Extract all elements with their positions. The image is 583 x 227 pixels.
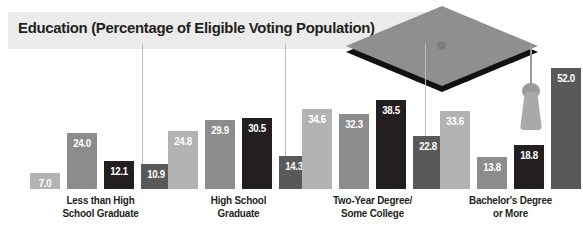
bar[interactable]: 10.9 [141, 164, 171, 189]
category-label-line-1: Bachelor's Degree [444, 194, 577, 207]
bar-group-1: 7.024.012.110.9Less than HighSchool Grad… [30, 0, 171, 189]
category-label-line-2: Graduate [172, 207, 305, 220]
education-bar-chart: Education (Percentage of Eligible Voting… [0, 0, 583, 227]
bar-value-label: 30.5 [244, 122, 270, 134]
bar-value-label: 22.8 [415, 140, 441, 152]
bar-value-label: 34.6 [304, 113, 330, 125]
bar-value-label: 24.0 [69, 137, 95, 149]
category-label-line-1: Two-Year Degree/ [306, 194, 439, 207]
bar[interactable]: 7.0 [30, 173, 60, 189]
bar[interactable]: 29.9 [205, 120, 235, 189]
bar-value-label: 33.6 [442, 115, 468, 127]
bar[interactable]: 30.5 [242, 118, 272, 189]
category-label-line-1: Less than High [34, 194, 167, 207]
bar[interactable]: 34.6 [302, 109, 332, 189]
category-label: Bachelor's Degreeor More [444, 194, 577, 219]
bar[interactable]: 18.8 [514, 145, 544, 189]
category-label-line-2: Some College [306, 207, 439, 220]
bar-value-label: 29.9 [207, 124, 233, 136]
bar-value-label: 18.8 [516, 149, 542, 161]
bar-group-2: 24.829.930.514.3High SchoolGraduate [168, 0, 309, 189]
bar-value-label: 52.0 [553, 72, 579, 84]
bar-group-bars: 33.613.818.852.0 [440, 0, 581, 189]
bar[interactable]: 52.0 [551, 68, 581, 189]
bar[interactable]: 24.8 [168, 131, 198, 189]
bar-group-3: 34.632.338.522.8Two-Year Degree/Some Col… [302, 0, 443, 189]
bar-group-bars: 7.024.012.110.9 [30, 0, 171, 189]
bar-value-label: 32.3 [341, 118, 367, 130]
category-label-line-2: School Graduate [34, 207, 167, 220]
category-label: Less than HighSchool Graduate [34, 194, 167, 219]
bar[interactable]: 13.8 [477, 157, 507, 189]
bar-value-label: 10.9 [143, 168, 169, 180]
bar[interactable]: 33.6 [440, 111, 470, 189]
plot-area: 7.024.012.110.9Less than HighSchool Grad… [0, 0, 583, 189]
bar[interactable]: 12.1 [104, 161, 134, 189]
bar-group-bars: 24.829.930.514.3 [168, 0, 309, 189]
bar-value-label: 12.1 [106, 165, 132, 177]
bar-value-label: 24.8 [170, 135, 196, 147]
category-label: Two-Year Degree/Some College [306, 194, 439, 219]
bar-value-label: 13.8 [479, 161, 505, 173]
bar[interactable]: 22.8 [413, 136, 443, 189]
bar-group-4: 33.613.818.852.0Bachelor's Degreeor More [440, 0, 581, 189]
bar[interactable]: 24.0 [67, 133, 97, 189]
category-label-line-2: or More [444, 207, 577, 220]
bar-value-label: 38.5 [378, 104, 404, 116]
category-label: High SchoolGraduate [172, 194, 305, 219]
bar-value-label: 7.0 [32, 177, 58, 189]
category-label-line-1: High School [172, 194, 305, 207]
bar[interactable]: 32.3 [339, 114, 369, 189]
bar[interactable]: 38.5 [376, 100, 406, 189]
bar-group-bars: 34.632.338.522.8 [302, 0, 443, 189]
